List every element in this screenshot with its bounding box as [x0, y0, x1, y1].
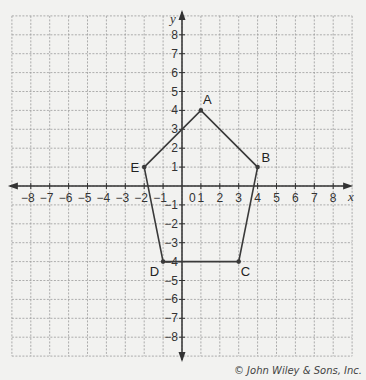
x-axis-left-arrow-icon [8, 183, 18, 190]
axes: xy [8, 10, 354, 362]
y-tick-label: 1 [171, 160, 178, 174]
vertex-label-c: C [241, 264, 250, 279]
x-tick-label: −3 [115, 191, 129, 205]
y-tick-label: −8 [164, 330, 178, 344]
vertex-label-b: B [262, 150, 271, 165]
y-tick-label: 6 [171, 66, 178, 80]
x-axis-label: x [347, 189, 354, 204]
x-tick-label: −4 [97, 191, 111, 205]
x-tick-label: 5 [273, 191, 280, 205]
vertex-label-a: A [203, 92, 212, 107]
vertex-point-b [255, 165, 260, 170]
x-tick-label: 7 [311, 191, 318, 205]
x-tick-label: 4 [254, 191, 261, 205]
vertex-point-a [199, 108, 204, 113]
y-tick-label: 2 [171, 141, 178, 155]
y-tick-label: 5 [171, 85, 178, 99]
y-tick-label: 4 [171, 103, 178, 117]
y-axis-up-arrow-icon [179, 10, 186, 20]
y-axis-down-arrow-icon [179, 352, 186, 362]
vertex-label-d: D [150, 264, 159, 279]
y-tick-label: −2 [164, 217, 178, 231]
x-tick-label: −8 [21, 191, 35, 205]
y-tick-label: 7 [171, 47, 178, 61]
x-tick-label: 2 [216, 191, 223, 205]
y-tick-label: −6 [164, 292, 178, 306]
x-tick-label: −7 [40, 191, 54, 205]
copyright-credit: © John Wiley & Sons, Inc. [234, 365, 362, 376]
vertex-label-e: E [131, 160, 140, 175]
x-tick-label: 8 [330, 191, 337, 205]
y-axis-label: y [168, 11, 176, 26]
x-tick-label: 1 [198, 191, 205, 205]
x-tick-label: −5 [78, 191, 92, 205]
coordinate-plane: xy −8−7−6−5−4−3−2−11234567887654321−1−2−… [0, 0, 366, 380]
y-tick-label: −5 [164, 274, 178, 288]
y-tick-label: −3 [164, 236, 178, 250]
y-tick-label: −7 [164, 311, 178, 325]
vertex-point-e [142, 165, 147, 170]
x-tick-label: 6 [292, 191, 299, 205]
y-tick-label: −1 [164, 198, 178, 212]
origin-label: 0 [189, 191, 196, 205]
x-tick-label: −6 [59, 191, 73, 205]
vertex-point-d [161, 259, 166, 264]
x-tick-label: 3 [235, 191, 242, 205]
x-tick-label: −2 [134, 191, 148, 205]
y-tick-label: 8 [171, 28, 178, 42]
